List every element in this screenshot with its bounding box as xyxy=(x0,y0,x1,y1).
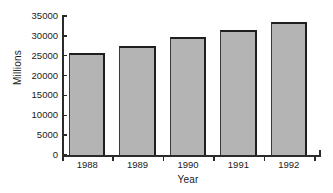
y-axis-tick-label: 5000 xyxy=(14,130,58,140)
x-axis-tick-label: 1990 xyxy=(163,159,213,170)
bar-1992 xyxy=(271,22,307,155)
bar-1988 xyxy=(69,53,105,155)
x-axis-tick-label: 1989 xyxy=(112,159,162,170)
y-axis-tick-label: 0 xyxy=(14,150,58,160)
y-axis-tick-label: 35000 xyxy=(14,11,58,21)
bar-1989 xyxy=(119,46,155,155)
y-axis-tick-mark xyxy=(62,154,67,156)
x-axis-tick-label: 1988 xyxy=(62,159,112,170)
x-axis-tick-labels: 19881989199019911992 xyxy=(62,159,314,173)
y-axis-tick-label: 15000 xyxy=(14,90,58,100)
y-axis-tick-label: 25000 xyxy=(14,51,58,61)
x-axis-title: Year xyxy=(62,174,314,185)
plot-area xyxy=(62,16,314,155)
x-axis-tick-label: 1992 xyxy=(264,159,314,170)
bar-chart: Millions 0500010000150002000025000300003… xyxy=(0,0,333,193)
y-axis-tick-label: 10000 xyxy=(14,110,58,120)
y-axis-tick-mark xyxy=(62,134,67,136)
bar-1991 xyxy=(220,30,256,155)
y-axis-tick-mark xyxy=(62,55,67,57)
x-axis-tick-label: 1991 xyxy=(213,159,263,170)
y-axis-tick-label: 20000 xyxy=(14,71,58,81)
y-axis-tick-mark xyxy=(62,95,67,97)
y-axis-tick-label: 30000 xyxy=(14,31,58,41)
y-axis-tick-labels: 05000100001500020000250003000035000 xyxy=(14,0,58,193)
y-axis-tick-mark xyxy=(62,115,67,117)
y-axis-tick-mark xyxy=(62,35,67,37)
x-axis-tick-mark xyxy=(314,156,316,161)
bar-1990 xyxy=(170,37,206,155)
y-axis-tick-mark xyxy=(62,75,67,77)
